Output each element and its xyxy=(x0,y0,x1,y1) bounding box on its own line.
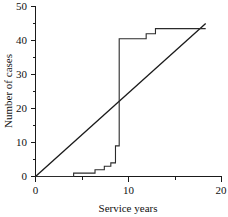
reference-line-series xyxy=(36,24,206,177)
y-tick-label-20: 20 xyxy=(16,102,28,114)
y-tick-label-30: 30 xyxy=(16,68,28,80)
x-tick-label-10: 10 xyxy=(123,184,135,196)
chart-container: 0 10 20 30 40 50 0 10 20 Service years N… xyxy=(0,0,228,217)
x-axis-major-ticks xyxy=(36,177,222,182)
y-tick-label-0: 0 xyxy=(22,170,28,182)
y-axis-title: Number of cases xyxy=(2,54,14,128)
y-tick-label-50: 50 xyxy=(16,0,28,12)
y-tick-label-40: 40 xyxy=(16,34,28,46)
x-tick-label-0: 0 xyxy=(33,184,39,196)
chart-plot: 0 10 20 30 40 50 0 10 20 Service years N… xyxy=(0,0,228,217)
x-tick-label-20: 20 xyxy=(216,184,228,196)
x-axis-title: Service years xyxy=(99,202,158,214)
y-tick-label-10: 10 xyxy=(16,136,28,148)
